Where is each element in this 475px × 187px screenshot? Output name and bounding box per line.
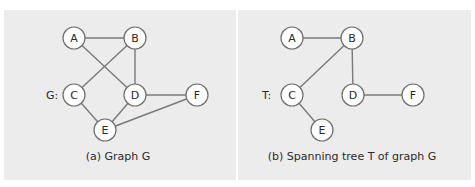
edge-e-f (105, 95, 197, 130)
node-f: F (402, 84, 424, 106)
node-e: E (311, 119, 333, 141)
node-label: C (70, 89, 78, 102)
caption-graph-g: (a) Graph G (86, 150, 151, 163)
node-d: D (342, 84, 364, 106)
node-label: B (131, 32, 139, 45)
node-label: F (194, 89, 200, 102)
node-label: D (131, 89, 139, 102)
tree-t-label: T: (261, 89, 271, 102)
node-label: F (410, 89, 416, 102)
node-a: A (63, 27, 85, 49)
node-c: C (63, 84, 85, 106)
node-label: A (70, 32, 78, 45)
node-b: B (341, 27, 363, 49)
node-label: E (319, 124, 326, 137)
diagram-canvas: ABCDFE G: (a) Graph G ABCDFE T: (b) Span… (0, 0, 475, 187)
node-label: D (349, 89, 357, 102)
graph-g: ABCDFE G: (a) Graph G (46, 27, 208, 163)
node-label: C (288, 89, 296, 102)
node-c: C (281, 84, 303, 106)
spanning-tree-t: ABCDFE T: (b) Spanning tree T of graph G (261, 27, 436, 163)
tree-t-nodes: ABCDFE (281, 27, 424, 141)
caption-spanning-tree-t: (b) Spanning tree T of graph G (268, 150, 436, 163)
node-label: A (288, 32, 296, 45)
node-label: B (348, 32, 356, 45)
node-d: D (124, 84, 146, 106)
node-f: F (186, 84, 208, 106)
node-b: B (124, 27, 146, 49)
graph-g-label: G: (46, 89, 58, 102)
node-e: E (94, 119, 116, 141)
node-a: A (281, 27, 303, 49)
edge-b-c (292, 38, 352, 95)
node-label: E (102, 124, 109, 137)
